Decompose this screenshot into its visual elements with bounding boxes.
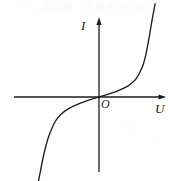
iu-characteristic-figure: 一、选择题（本题共９小题） A B C D I U O [0, 0, 179, 181]
origin-label: O [101, 98, 110, 110]
graph-canvas [0, 0, 179, 181]
y-axis-label: I [81, 19, 85, 32]
x-axis-arrowhead-icon [159, 94, 167, 99]
x-axis-label: U [155, 102, 164, 115]
y-axis-arrowhead-icon [96, 17, 101, 25]
iu-curve-path [37, 4, 155, 181]
